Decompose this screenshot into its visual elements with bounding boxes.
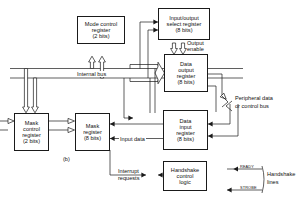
- label-peripheral-bus-line1: Peripheral data: [235, 95, 273, 101]
- figure-caption: (b): [63, 156, 70, 162]
- arrow-output-enable-left: [171, 43, 178, 55]
- label-interrupt-line1: Interrupt: [118, 168, 139, 174]
- block-mask-control-register[interactable]: Mask control register (2 bits): [14, 113, 49, 151]
- mask-register-line3: (8 bits): [84, 135, 101, 141]
- arrowhead-datain-right-upper: [208, 122, 213, 127]
- arrowhead-datain-right-lower: [208, 134, 213, 139]
- arrowhead-strobe: [227, 188, 232, 193]
- label-ready: READY: [240, 165, 254, 169]
- arrowhead-mask-register-top: [128, 116, 133, 121]
- block-io-select-register[interactable]: Input/output select register (8 bits): [158, 8, 210, 40]
- block-data-input-register[interactable]: Data input register (8 bits): [163, 110, 208, 150]
- label-interrupt-line2: requests: [118, 175, 139, 181]
- mask-control-line4: (2 bits): [23, 138, 40, 144]
- data-output-line4: (8 bits): [177, 79, 194, 85]
- peripheral-to-datain-lower: [208, 104, 238, 136]
- arrow-bus-to-mode-left: [89, 56, 96, 68]
- block-handshake-control-logic[interactable]: Handshake control logic: [163, 161, 207, 191]
- arrowhead-interrupt-right: [158, 173, 163, 178]
- label-handshake-lines-line2: lines: [267, 179, 279, 185]
- bus-down-to-mask-register: [124, 78, 133, 118]
- label-input-data: Input data: [119, 136, 146, 142]
- arrowhead-ready: [233, 167, 238, 172]
- bus-to-dataout-upper-edge: [130, 65, 158, 69]
- label-peripheral-bus-line2: or control bus: [235, 103, 269, 109]
- arrow-output-enable-right: [180, 43, 187, 55]
- arrow-peripheral-bus-out: [220, 93, 228, 101]
- handshake-line3: logic: [179, 179, 191, 185]
- dataout-to-peripheral-bus: [208, 74, 222, 95]
- block-mode-control-register[interactable]: Mode control register (2 bits): [77, 16, 125, 44]
- arrow-bus-to-maskctrl-right: [32, 78, 39, 113]
- mode-control-line3: (2 bits): [92, 33, 109, 39]
- arrowhead-interrupt-left: [141, 173, 146, 178]
- arrowhead-mask-upper: [110, 122, 115, 127]
- handshake-brace: [262, 166, 264, 193]
- arrowhead-mask-lower: [110, 136, 115, 141]
- dataout-to-peripheral-bus-2: [208, 86, 216, 112]
- arrow-bus-to-maskctrl-left: [23, 69, 30, 113]
- block-data-output-register[interactable]: Data output register (8 bits): [164, 54, 208, 92]
- label-handshake-lines-line1: Handshake: [267, 171, 295, 177]
- arrow-maskctrl-lower: [68, 127, 75, 132]
- bus-to-dataout-lower-edge: [130, 78, 158, 82]
- label-internal-bus: Internal bus: [76, 71, 107, 77]
- label-strobe: STROBE: [240, 186, 257, 190]
- arrow-maskctrl-upper: [68, 118, 75, 123]
- block-mask-register[interactable]: Mask register (8 bits): [75, 113, 110, 151]
- label-output-enable-line2: enable: [187, 46, 204, 52]
- figure-canvas: Mode control register (2 bits) Input/out…: [0, 0, 304, 202]
- io-select-line3: (8 bits): [175, 27, 192, 33]
- data-input-line4: (8 bits): [177, 136, 194, 142]
